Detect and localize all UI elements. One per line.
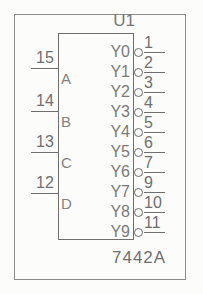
output-pin-number: 10: [144, 195, 168, 211]
input-pin-lead: [31, 68, 59, 69]
output-pin-lead: [144, 112, 165, 113]
output-pin-lead: [144, 152, 165, 153]
inversion-bubble-icon: [134, 148, 143, 157]
output-pin-number: 3: [144, 75, 168, 91]
inversion-bubble-icon: [134, 128, 143, 137]
input-pin-lead: [31, 152, 59, 153]
input-pin-number: 15: [31, 50, 59, 66]
output-pin-lead: [144, 132, 165, 133]
inversion-bubble-icon: [134, 228, 143, 237]
output-pin-label: Y6: [90, 164, 130, 180]
input-pin-number: 12: [31, 175, 59, 191]
output-pin-label: Y2: [90, 84, 130, 100]
output-pin-lead: [144, 52, 165, 53]
output-pin-number: 4: [144, 95, 168, 111]
output-pin-lead: [144, 92, 165, 93]
inversion-bubble-icon: [134, 208, 143, 217]
input-pin-lead: [31, 111, 59, 112]
input-pin-label: C: [61, 155, 72, 170]
output-pin-lead: [144, 172, 165, 173]
output-pin-lead: [144, 192, 165, 193]
output-pin-label: Y7: [90, 184, 130, 200]
input-pin-lead: [31, 193, 59, 194]
output-pin-lead: [144, 212, 165, 213]
output-pin-number: 5: [144, 115, 168, 131]
output-pin-label: Y3: [90, 104, 130, 120]
inversion-bubble-icon: [134, 48, 143, 57]
output-pin-number: 7: [144, 155, 168, 171]
input-pin-number: 14: [31, 93, 59, 109]
input-pin-number: 13: [31, 134, 59, 150]
input-pin-label: A: [61, 71, 71, 86]
schematic-symbol-canvas: U1 15A14B13C12D Y01Y12Y23Y34Y45Y56Y67Y79…: [0, 0, 203, 294]
inversion-bubble-icon: [134, 168, 143, 177]
output-pin-label: Y5: [90, 144, 130, 160]
reference-designator-label: U1: [104, 11, 144, 31]
output-pin-number: 9: [144, 175, 168, 191]
output-pin-label: Y4: [90, 124, 130, 140]
inversion-bubble-icon: [134, 68, 143, 77]
output-pin-number: 6: [144, 135, 168, 151]
output-pin-label: Y8: [90, 204, 130, 220]
inversion-bubble-icon: [134, 108, 143, 117]
output-pin-lead: [144, 232, 165, 233]
output-pin-lead: [144, 72, 165, 73]
output-pin-number: 11: [144, 215, 168, 231]
output-pin-label: Y1: [90, 64, 130, 80]
part-number-label: 7442A: [112, 248, 166, 268]
input-pin-label: B: [61, 114, 71, 129]
output-pin-label: Y9: [90, 224, 130, 240]
input-pin-label: D: [61, 196, 72, 211]
inversion-bubble-icon: [134, 188, 143, 197]
output-pin-number: 1: [144, 35, 168, 51]
output-pin-label: Y0: [90, 44, 130, 60]
inversion-bubble-icon: [134, 88, 143, 97]
output-pin-number: 2: [144, 55, 168, 71]
